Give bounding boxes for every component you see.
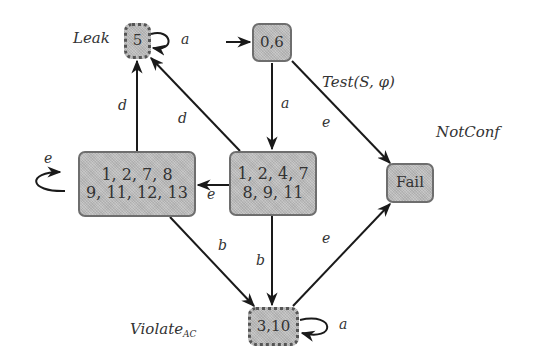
state-label: 5 (133, 32, 143, 49)
annotation-notconf: NotConf (436, 123, 500, 141)
edge-label-mid-to-leak: d (178, 110, 187, 126)
edge-label-init-to-mid: a (281, 95, 289, 111)
state-label: 0,6 (260, 34, 284, 51)
annotation-violate-sub: AC (183, 329, 196, 339)
edge-label-violate-to-fail: e (322, 230, 330, 246)
state-label: Fail (396, 174, 424, 191)
annotation-test: Test(S, φ) (322, 73, 395, 91)
state-node-leak: 5 (124, 23, 151, 59)
edge-label-mid-to-violate: b (256, 252, 265, 268)
annotation-violate: ViolateAC (130, 320, 196, 339)
edge-left-self-loop (36, 172, 65, 191)
edge-label-violate-self: a (339, 316, 347, 332)
edge-left-to-violate (170, 217, 254, 306)
state-label-line2: 8, 9, 11 (242, 184, 303, 202)
edge-label-left-self: e (44, 150, 52, 166)
state-label: 3,10 (257, 318, 290, 335)
annotation-violate-main: Violate (130, 320, 183, 338)
state-node-fail: Fail (386, 163, 434, 203)
edge-label-init-to-fail: e (322, 114, 330, 130)
edge-leak-self-loop (151, 33, 169, 48)
state-node-initial: 0,6 (252, 23, 292, 62)
edge-violate-to-fail (293, 204, 390, 306)
edge-label-left-to-violate: b (218, 237, 227, 253)
edge-violate-self-loop (300, 319, 327, 335)
edge-label-leak-self: a (181, 31, 189, 47)
state-node-middle: 1, 2, 4, 7 8, 9, 11 (229, 151, 317, 216)
state-label-line1: 1, 2, 7, 8 (101, 166, 172, 184)
state-label-line2: 9, 11, 12, 13 (86, 184, 188, 202)
state-node-violate: 3,10 (248, 307, 299, 346)
state-node-left: 1, 2, 7, 8 9, 11, 12, 13 (78, 151, 196, 217)
edge-label-left-to-leak: d (118, 97, 127, 113)
edge-label-mid-to-left: e (207, 186, 215, 202)
edge-mid-to-leak (151, 58, 240, 151)
state-label-line1: 1, 2, 4, 7 (237, 165, 308, 183)
annotation-leak: Leak (73, 29, 110, 47)
